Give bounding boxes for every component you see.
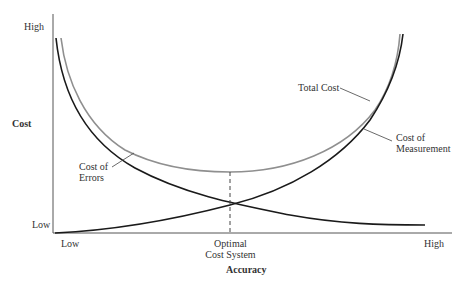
measurement-label-line2: Measurement <box>396 143 450 154</box>
y-tick-high: High <box>24 21 44 32</box>
measurement-leader <box>364 129 392 141</box>
x-tick-optimal: Optimal Cost System <box>193 238 268 260</box>
errors-label-line1: Cost of <box>79 161 108 172</box>
errors-label-line2: Errors <box>79 172 108 183</box>
total-cost-label: Total Cost <box>298 82 339 93</box>
total-cost-leader <box>340 88 370 101</box>
x-tick-high: High <box>424 238 444 249</box>
cost-of-measurement-curve <box>55 34 403 233</box>
measurement-label-line1: Cost of <box>396 132 450 143</box>
x-tick-low: Low <box>61 238 79 249</box>
optimal-label-line1: Optimal <box>193 238 268 249</box>
measurement-label: Cost of Measurement <box>396 132 450 154</box>
optimal-label-line2: Cost System <box>193 249 268 260</box>
x-axis-label: Accuracy <box>226 264 267 275</box>
y-axis-label: Cost <box>12 118 31 129</box>
y-tick-low: Low <box>32 219 50 230</box>
errors-label: Cost of Errors <box>79 161 108 183</box>
